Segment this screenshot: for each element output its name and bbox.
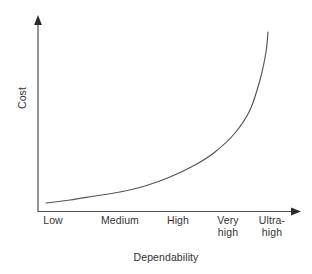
x-tick-label-low: Low <box>23 215 83 227</box>
x-tick-label-high: High <box>148 215 208 227</box>
chart-figure: Cost Low Medium High Very high Ultra- hi… <box>0 0 312 274</box>
x-tick-label-medium: Medium <box>90 215 150 227</box>
y-axis-title: Cost <box>16 78 28 118</box>
cost-dependability-curve <box>46 32 268 203</box>
y-axis-arrowhead <box>34 15 42 25</box>
x-axis-title: Dependability <box>106 251 226 263</box>
x-tick-label-ultra-high: Ultra- high <box>244 215 300 238</box>
